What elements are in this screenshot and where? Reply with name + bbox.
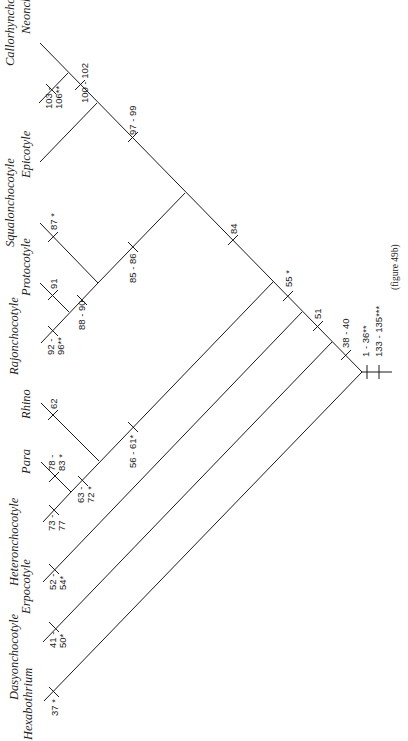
character-tick	[313, 321, 323, 331]
epicotyle-branch	[40, 103, 97, 162]
squalonchocotyle-branch	[40, 223, 98, 283]
taxon-label-neonchocotyle: Neonchocotyle	[19, 0, 33, 35]
character-labels: 100 - 102103 -106**97 - 9987 *9192 -96**…	[43, 63, 384, 716]
taxon-label-epicotyle: Epicotyle	[19, 130, 33, 179]
taxon-label-rhino: Rhino	[19, 389, 33, 420]
rhino-clade-stem	[71, 282, 273, 492]
character-label: 88 - 90	[76, 300, 87, 330]
character-tick	[49, 687, 59, 697]
character-label: 55 *	[283, 270, 294, 287]
character-label: 56 - 61*	[127, 434, 138, 468]
character-label: 96**	[55, 337, 66, 355]
rhino-branch	[41, 403, 99, 461]
hexabothrium-branch	[44, 372, 362, 701]
character-ticks	[46, 80, 379, 697]
taxon-label-erpocotyle: Erpocotyle	[19, 559, 33, 615]
taxon-label-rajonchocotyle: Rajonchocotyle	[7, 297, 21, 376]
character-label: 62	[48, 398, 59, 409]
taxon-label-callorhynchocotyle: Callorhynchocotyle	[3, 0, 17, 66]
character-label: 83 *	[56, 454, 67, 471]
character-label: 133 - 135***	[373, 305, 384, 357]
character-label: 37 *	[49, 699, 60, 716]
character-label: 84	[228, 223, 239, 234]
character-tick	[49, 472, 59, 482]
taxon-label-hexabothrium: Hexabothrium	[21, 668, 35, 741]
squalo-clade-stem	[98, 193, 185, 283]
taxon-label-para: Para	[19, 449, 33, 475]
character-label: 106**	[53, 85, 64, 109]
character-label: 91	[48, 278, 59, 289]
character-label: 38 - 40	[340, 318, 351, 348]
figure-caption: (figure 49b)	[390, 244, 401, 290]
character-tick	[78, 476, 88, 486]
character-label: 77	[56, 520, 67, 531]
character-label: 85 - 86	[127, 253, 138, 283]
character-tick	[48, 290, 58, 300]
character-tick	[49, 564, 59, 574]
character-label: 51	[312, 308, 323, 319]
cladogram-figure: 100 - 102103 -106**97 - 9987 *9192 -96**…	[0, 0, 408, 741]
taxon-label-squalonchocotyle: Squalonchocotyle	[3, 158, 17, 247]
character-label: 97 - 99	[127, 105, 138, 135]
character-label: 54*	[57, 575, 68, 590]
character-label: 87 *	[48, 213, 59, 230]
erpocotyle-branch	[43, 312, 302, 582]
branch-lines	[39, 43, 392, 701]
character-label: 72 *	[85, 486, 96, 503]
cladogram-svg: 100 - 102103 -106**97 - 9987 *9192 -96**…	[0, 0, 408, 741]
character-label: 1 - 36**	[360, 325, 371, 357]
character-label: 50*	[57, 633, 68, 648]
taxon-label-protocotyle: Protocotyle	[19, 238, 33, 297]
character-label: 100 - 102	[79, 63, 90, 103]
taxon-labels: NeonchocotyleCallorhynchocotyleEpicotyle…	[3, 0, 35, 741]
taxon-label-dasyonchocotyle: Dasyonchocotyle	[7, 613, 21, 701]
